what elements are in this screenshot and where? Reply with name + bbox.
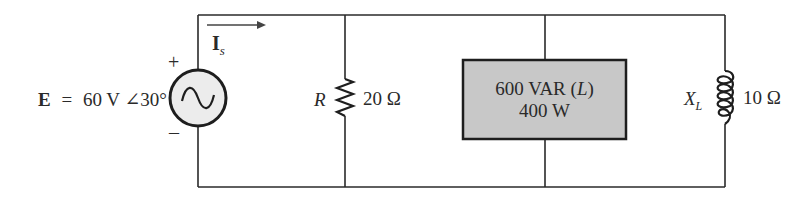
inductor-symbol: XL <box>684 89 702 108</box>
inductor-icon <box>718 71 734 124</box>
resistor-icon <box>337 79 353 116</box>
load-real-power: 400 W <box>519 100 570 122</box>
current-arrow-icon <box>207 21 266 29</box>
inductor-value: 10 Ω <box>743 88 781 107</box>
equals-sign: = <box>61 89 72 110</box>
ac-source-icon <box>170 70 226 126</box>
load-box-text: 600 VAR (L) 400 W <box>462 60 627 140</box>
current-subscript: s <box>220 43 225 58</box>
resistor-value: 20 Ω <box>363 89 401 108</box>
source-symbol: E <box>38 89 51 110</box>
current-symbol: I <box>212 32 220 54</box>
current-label: Is <box>212 33 225 53</box>
plus-terminal: + <box>168 52 179 72</box>
source-label: E = 60 V ∠30° <box>38 90 167 109</box>
inductor-subscript: L <box>696 99 703 113</box>
source-value: 60 V ∠30° <box>83 89 167 110</box>
load-reactive-power: 600 VAR (L) <box>495 78 594 100</box>
minus-terminal: – <box>169 122 179 142</box>
resistor-symbol: R <box>314 90 326 109</box>
